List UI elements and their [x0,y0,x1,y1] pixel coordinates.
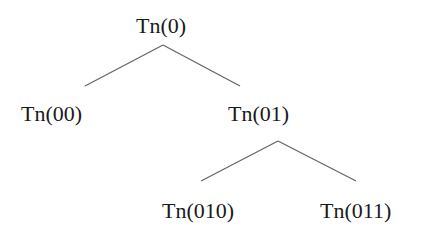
node-tn-0: Tn(0) [136,14,186,38]
node-tn-011: Tn(011) [320,199,391,223]
node-tn-00: Tn(00) [21,102,82,126]
edge-0-01 [163,45,240,86]
node-tn-010: Tn(010) [162,199,234,223]
edge-01-011 [278,141,356,181]
node-tn-01: Tn(01) [228,102,289,126]
edge-0-00 [85,45,163,86]
edge-01-010 [201,141,278,181]
